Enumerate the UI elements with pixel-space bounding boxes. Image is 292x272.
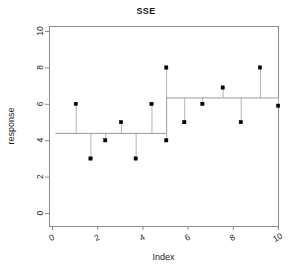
data-point [74, 102, 77, 105]
data-point [276, 104, 279, 107]
data-point [150, 102, 153, 105]
data-point [239, 120, 242, 123]
data-point [134, 157, 137, 160]
y-tick-label: 6 [35, 101, 45, 106]
data-point [258, 66, 261, 69]
plot-canvas: 02468100246810Indexresponse [0, 0, 292, 272]
data-point [221, 86, 224, 89]
y-tick-label: 0 [35, 210, 45, 215]
y-tick-label: 4 [35, 138, 45, 143]
data-point [201, 102, 204, 105]
y-axis-title: response [6, 107, 16, 144]
x-tick-label: 8 [228, 232, 237, 243]
data-point [89, 157, 92, 160]
x-tick-label: 2 [92, 232, 101, 243]
data-point [183, 120, 186, 123]
x-tick-label: 6 [183, 232, 192, 243]
y-tick-label: 8 [35, 65, 45, 70]
data-point [119, 120, 122, 123]
x-tick-label: 10 [271, 231, 284, 245]
data-point [165, 66, 168, 69]
data-point [104, 139, 107, 142]
sse-chart: SSE 02468100246810Indexresponse [0, 0, 292, 272]
x-axis-title: Index [152, 252, 175, 262]
x-tick-label: 4 [137, 232, 146, 243]
data-point [165, 139, 168, 142]
x-tick-label: 0 [47, 232, 56, 243]
plot-border [50, 27, 279, 227]
y-tick-label: 10 [35, 26, 45, 36]
y-tick-label: 2 [35, 174, 45, 179]
